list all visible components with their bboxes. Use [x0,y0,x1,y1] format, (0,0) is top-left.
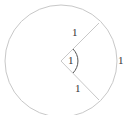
angle-label: 1 [68,54,74,66]
upper-radius-line [61,23,99,61]
lower-radius-line [61,61,99,100]
unit-circle [5,5,117,115]
radian-diagram: 1 1 1 1 [0,0,126,115]
upper-radius-label: 1 [72,26,78,38]
arc-length-label: 1 [118,54,124,66]
angle-arc [73,49,78,73]
lower-radius-label: 1 [75,82,81,94]
